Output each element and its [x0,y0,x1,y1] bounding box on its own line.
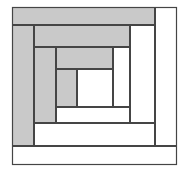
ring2-bottom-log [35,124,155,146]
ring3-left-log [57,70,77,107]
center-square [78,70,113,107]
log-cabin-quilt-block-figure [0,0,184,175]
ring3-bottom-log [57,108,130,123]
ring1-right-log [156,8,177,146]
ring1-left-log [13,26,34,146]
ring3-right-log [114,48,130,107]
quilt-block-drawing [0,0,184,175]
ring1-bottom-log [13,147,177,165]
ring2-left-log [35,48,56,123]
ring2-right-log [131,26,155,123]
ring2-top-log [35,26,130,47]
ring3-top-log [57,48,113,69]
ring1-top-log [13,8,155,25]
